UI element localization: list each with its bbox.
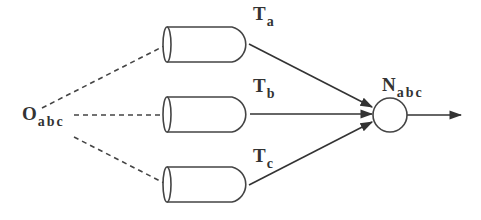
channel-label-a-sub: a: [267, 14, 276, 29]
node-circle[interactable]: [373, 98, 407, 132]
channel-cylinder-c[interactable]: [163, 167, 246, 202]
channel-label-b-main: T: [253, 75, 266, 96]
node-label-main: N: [382, 74, 396, 95]
dashed-link-c: [74, 137, 164, 183]
channel-label-a: Ta: [253, 4, 276, 23]
channel-cylinder-a[interactable]: [163, 27, 246, 62]
dashed-link-a: [42, 46, 164, 108]
source-label-sub: abc: [38, 114, 65, 129]
channel-cylinder-b[interactable]: [163, 97, 246, 132]
channel-label-c-sub: c: [267, 156, 275, 171]
source-label-main: O: [22, 103, 37, 124]
diagram-canvas: [0, 0, 481, 220]
channel-label-b: Tb: [253, 76, 276, 95]
channel-links: [249, 44, 461, 185]
channel-label-c: Tc: [253, 146, 275, 165]
channel-label-a-main: T: [253, 3, 266, 24]
source-label: Oabc: [22, 104, 65, 123]
node-label: Nabc: [382, 75, 424, 94]
channel-label-c-main: T: [253, 145, 266, 166]
node-label-sub: abc: [397, 85, 424, 100]
channel-label-b-sub: b: [267, 86, 277, 101]
